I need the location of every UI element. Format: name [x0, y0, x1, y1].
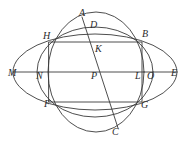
point-label-N: N [36, 71, 43, 81]
point-label-E: E [171, 68, 177, 78]
point-label-D: D [90, 20, 97, 30]
point-label-P: P [91, 71, 97, 81]
point-label-O: O [147, 71, 154, 81]
point-label-L: L [135, 71, 141, 81]
geometry-figure: A D B H K M N P L O E F G C [0, 0, 191, 148]
point-label-B: B [142, 29, 148, 39]
point-label-C: C [112, 127, 119, 137]
point-label-A: A [79, 8, 85, 18]
point-label-H: H [43, 31, 50, 41]
point-label-G: G [141, 100, 148, 110]
point-label-F: F [44, 99, 50, 109]
point-label-K: K [95, 44, 102, 54]
point-label-M: M [8, 68, 16, 78]
